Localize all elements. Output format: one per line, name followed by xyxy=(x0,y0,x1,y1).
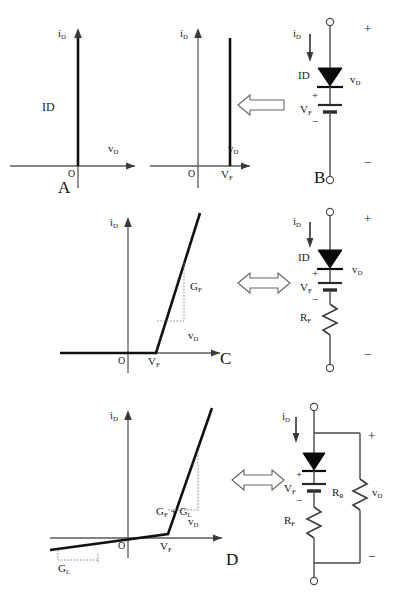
panel-b-x-axis-label: vD xyxy=(228,143,238,156)
panel-d-vf-tick-label: VF xyxy=(160,541,172,554)
panel-c-x-axis-label: vD xyxy=(188,330,198,343)
panel-d-origin-label: O xyxy=(118,541,125,551)
panel-b-source-label: VF xyxy=(300,104,312,117)
terminal-top xyxy=(326,208,333,215)
terminal-top xyxy=(326,18,333,25)
panel-c-origin-label: O xyxy=(118,356,125,366)
panel-b-letter: B xyxy=(314,168,325,188)
panel-d-source-plus: + xyxy=(296,469,302,480)
panel-d-terminal-plus: + xyxy=(368,429,375,442)
panel-c-terminal-plus: + xyxy=(364,212,371,225)
panel-c-slope-label: GF xyxy=(190,281,202,294)
panel-b-circuit-svg xyxy=(288,6,396,196)
panel-d-slope-forward-label: GF + GL xyxy=(156,506,192,519)
panel-d-source-minus: − xyxy=(296,495,302,506)
terminal-bottom xyxy=(310,577,317,584)
panel-b-source-minus: − xyxy=(312,116,318,127)
panel-b-vf-tick-label: VF xyxy=(221,169,233,182)
panel-b-terminal-plus: + xyxy=(364,22,371,35)
panel-c-voltage-label: vD xyxy=(352,264,362,277)
panel-b-terminal-minus: − xyxy=(364,156,371,169)
panel-d-slope-leakage-label: GL xyxy=(58,563,70,576)
panel-d-letter: D xyxy=(226,550,238,570)
panel-d-y-axis-label: iD xyxy=(110,410,118,423)
panel-b-diode-label: ID xyxy=(298,70,310,81)
panel-d-circuit: iD + − + VF − RF RR vD xyxy=(288,395,396,595)
panel-a-x-axis-label: vD xyxy=(108,143,118,156)
panel-c-source-plus: + xyxy=(312,268,318,279)
panel-a-y-axis-label: iD xyxy=(58,28,66,41)
terminal-bottom xyxy=(326,364,333,371)
panel-d-voltage-label: vD xyxy=(372,487,382,500)
arrow-left-icon xyxy=(236,90,288,120)
panel-b-voltage-label: vD xyxy=(350,74,360,87)
panel-c-y-axis-label: iD xyxy=(110,217,118,230)
panel-c-terminal-minus: − xyxy=(364,348,371,361)
panel-c-diode-label: ID xyxy=(298,252,310,263)
panel-d-graph-block: iD vD O VF GF + GL GL D xyxy=(50,398,260,588)
panel-a-curve-label: ID xyxy=(42,101,55,113)
panel-b-connector xyxy=(236,90,288,120)
panel-a-graph xyxy=(0,6,150,196)
panel-b-circuit: iD + − ID vD + VF − B xyxy=(288,6,396,196)
panel-d-resistor-label: RF xyxy=(284,515,295,528)
panel-a-letter: A xyxy=(58,178,70,198)
panel-d-connector xyxy=(230,465,286,495)
panel-d-terminal-minus: − xyxy=(368,550,375,563)
panel-c-vf-tick-label: VF xyxy=(148,356,160,369)
panel-b-source-plus: + xyxy=(312,90,318,101)
panel-b-current-label: iD xyxy=(293,28,301,41)
terminal-bottom xyxy=(326,176,333,183)
panel-d-source-label: VF xyxy=(284,483,296,496)
panel-c-current-label: iD xyxy=(293,216,301,229)
panel-d-current-label: iD xyxy=(282,411,290,424)
panel-c-resistor-label: RF xyxy=(300,312,311,325)
arrow-both-icon xyxy=(236,268,292,298)
arrow-both-icon xyxy=(230,465,286,495)
panel-c-connector xyxy=(236,268,292,298)
panel-b-origin-label: O xyxy=(188,169,195,179)
panel-c-graph-block: iD vD O VF GF C xyxy=(60,205,250,380)
panel-c-source-label: VF xyxy=(300,282,312,295)
panel-c-letter: C xyxy=(220,349,231,369)
panel-d-parallel-resistor-label: RR xyxy=(332,487,344,500)
panel-b-y-axis-label: iD xyxy=(180,28,188,41)
terminal-top xyxy=(310,403,317,410)
panel-c-source-minus: − xyxy=(312,294,318,305)
panel-a: iD vD O ID A xyxy=(0,6,150,196)
panel-c-circuit: iD + − ID vD + VF − RF xyxy=(288,198,396,386)
